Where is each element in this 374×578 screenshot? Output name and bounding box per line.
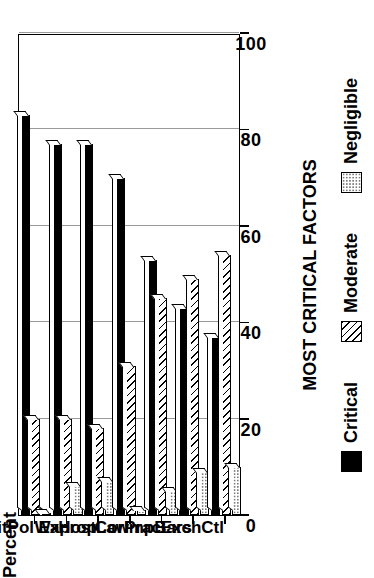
chart-figure: Percent RemitPolWarExpropHostLawCorPracI… <box>0 0 374 578</box>
bar-cap-end <box>13 111 29 116</box>
bar-cap-top <box>196 468 201 511</box>
bar-cap-end <box>140 256 156 261</box>
bar-cap-top <box>91 425 96 511</box>
bar-cap-end <box>97 477 113 482</box>
bar-cap-top <box>59 415 64 511</box>
bar-face <box>159 299 166 514</box>
bar-cap-end <box>204 333 220 338</box>
bar-cap-end <box>108 174 124 179</box>
legend-swatch-critical <box>341 451 362 472</box>
value-tick-label: 100 <box>235 34 267 55</box>
bar-cap-top <box>112 174 117 511</box>
bar-cap-end <box>55 415 71 420</box>
bar-face <box>127 367 134 514</box>
bar-cap-end <box>45 140 61 145</box>
bar-cap-top <box>218 251 223 511</box>
value-tick-label: 40 <box>240 323 261 344</box>
bar-cap-top <box>154 294 159 511</box>
bar-cap-top <box>207 333 212 511</box>
bar-cap-top <box>80 140 85 511</box>
category-axis: RemitPolWarExpropHostLawCorPracImpBarsEx… <box>18 516 240 578</box>
value-tick-label: 60 <box>240 227 261 248</box>
bar-cap-top <box>49 140 54 511</box>
bar-corprac-moderate <box>158 298 167 515</box>
bar-cap-top <box>186 275 191 511</box>
bar-cap-top <box>27 415 32 511</box>
category-axis-title: MOST CRITICAL FACTORS <box>300 34 321 516</box>
bar-cap-end <box>214 251 230 256</box>
value-tick-label: 80 <box>240 130 261 151</box>
bar-remitpol-negligible <box>42 513 51 515</box>
bar-cap-top <box>17 111 22 511</box>
gridline <box>19 128 239 129</box>
bar-cap-top <box>122 362 127 511</box>
bar-cap-top <box>175 304 180 511</box>
chart-legend: CriticalModerateNegligible <box>334 34 368 516</box>
legend-swatch-moderate <box>341 321 362 342</box>
bar-cap-end <box>224 463 240 468</box>
value-tick-label: 0 <box>246 516 257 537</box>
bar-cap-top <box>101 478 106 511</box>
bar-remitpol-moderate <box>31 419 40 515</box>
category-label-remitpol: RemitPol <box>0 518 34 538</box>
chart-rotated-canvas: Percent RemitPolWarExpropHostLawCorPracI… <box>0 0 374 578</box>
gridline <box>19 32 239 33</box>
bar-cap-end <box>119 362 135 367</box>
value-tick-label: 20 <box>240 420 261 441</box>
bar-cap-top <box>228 463 233 511</box>
legend-swatch-negligible <box>341 172 362 193</box>
value-axis: 020406080100 <box>240 34 280 516</box>
bar-cap-top <box>144 256 149 511</box>
plot-area <box>18 34 240 516</box>
bar-cap-end <box>24 415 40 420</box>
legend-item-critical: Critical <box>341 382 362 472</box>
bar-face <box>32 420 39 514</box>
legend-item-negligible: Negligible <box>341 78 362 193</box>
category-tick <box>224 516 226 524</box>
bar-face <box>138 511 145 514</box>
legend-label: Critical <box>341 382 362 443</box>
bar-hostlaw-negligible <box>137 510 146 515</box>
bar-cap-end <box>150 294 166 299</box>
bar-hostlaw-moderate <box>126 366 135 515</box>
bar-cap-end <box>182 275 198 280</box>
legend-label: Negligible <box>341 78 362 164</box>
bar-cap-end <box>77 140 93 145</box>
legend-item-moderate: Moderate <box>341 233 362 342</box>
legend-label: Moderate <box>341 233 362 313</box>
category-label-exchctl: ExchCtl <box>161 518 224 538</box>
